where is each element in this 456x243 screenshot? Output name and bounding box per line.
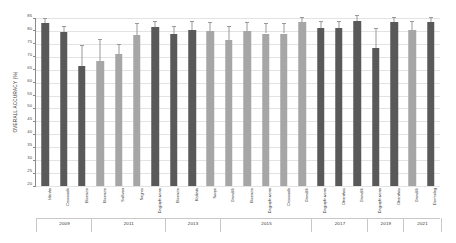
y-axis-tick-label: 20 bbox=[27, 182, 32, 186]
bar bbox=[152, 27, 160, 186]
y-axis-tick-label: 60 bbox=[27, 79, 32, 83]
bar bbox=[372, 48, 380, 186]
y-axis-tick-label: 50 bbox=[27, 104, 32, 108]
bar-group bbox=[165, 18, 183, 186]
bar-group bbox=[385, 18, 403, 186]
error-bar-cap bbox=[62, 26, 66, 27]
y-axis-tick-label: 30 bbox=[27, 156, 32, 160]
bar bbox=[78, 66, 86, 186]
x-axis-category-label-text: Grondilli bbox=[230, 188, 235, 202]
bar-group bbox=[183, 18, 201, 186]
bar-group bbox=[293, 18, 311, 186]
y-axis-tick-label: 85 bbox=[27, 14, 32, 18]
bar bbox=[225, 40, 233, 186]
y-axis-tick-label: 80 bbox=[27, 27, 32, 31]
bar-group bbox=[73, 18, 91, 186]
error-bar bbox=[192, 21, 193, 30]
error-bar bbox=[320, 21, 321, 29]
bar-series bbox=[36, 18, 440, 186]
bar bbox=[243, 31, 251, 186]
bar bbox=[335, 28, 343, 186]
bar-group bbox=[146, 18, 164, 186]
bar bbox=[317, 28, 325, 186]
x-axis-category-label-text: Otranthos bbox=[341, 188, 346, 205]
x-axis-category-labels: IdanhaCrosswalkBisenzioBisenzioSullivanS… bbox=[36, 188, 440, 222]
error-bar-cap bbox=[153, 21, 157, 22]
bar-group bbox=[238, 18, 256, 186]
y-axis-tick-label: 75 bbox=[27, 40, 32, 44]
bar bbox=[354, 21, 362, 186]
y-axis-tick-label: 70 bbox=[27, 53, 32, 57]
error-bar bbox=[173, 26, 174, 34]
x-axis-category-label-text: Bisenzio bbox=[249, 188, 254, 203]
error-bar-cap bbox=[208, 22, 212, 23]
y-axis-tick-label: 55 bbox=[27, 92, 32, 96]
bar bbox=[427, 22, 435, 186]
bar bbox=[207, 31, 215, 186]
error-bar-cap bbox=[98, 39, 102, 40]
bar-group bbox=[36, 18, 54, 186]
year-group: 2011 bbox=[91, 218, 165, 232]
bar bbox=[262, 34, 270, 186]
error-bar-cap bbox=[245, 22, 249, 23]
bar bbox=[299, 22, 307, 186]
x-axis-category-label-text: Crosswalk bbox=[65, 188, 70, 206]
error-bar bbox=[247, 22, 248, 31]
bar-group bbox=[422, 18, 440, 186]
error-bar-cap bbox=[227, 26, 231, 27]
year-group-label: 2017 bbox=[312, 221, 367, 226]
bar-group bbox=[311, 18, 329, 186]
error-bar-cap bbox=[374, 28, 378, 29]
error-bar bbox=[118, 44, 119, 54]
error-bar-cap bbox=[282, 23, 286, 24]
year-group-label: 2011 bbox=[92, 221, 165, 226]
bar-group bbox=[220, 18, 238, 186]
y-axis-ticks: 8580757065605550454035302520 bbox=[0, 18, 36, 187]
error-bar-cap bbox=[337, 21, 341, 22]
bar-chart-figure: 8580757065605550454035302520 OVERALL ACC… bbox=[0, 0, 456, 243]
bar-group bbox=[330, 18, 348, 186]
y-axis-title-text: OVERALL ACCURACY (%) bbox=[13, 52, 18, 152]
error-bar-cap bbox=[410, 21, 414, 22]
x-axis-category-label-text: Dagiupfruvona bbox=[267, 188, 272, 213]
bar bbox=[133, 35, 141, 186]
x-axis-category-label-text: Dermolog bbox=[432, 188, 437, 205]
y-axis-tick-label: 35 bbox=[27, 143, 32, 147]
gridline bbox=[36, 186, 440, 187]
x-axis-category-label-text: Crosswalk bbox=[286, 188, 291, 206]
year-group-axis: 2009201120132015201720192021 bbox=[36, 218, 440, 238]
year-group: 2013 bbox=[165, 218, 221, 232]
error-bar bbox=[412, 21, 413, 30]
x-axis-category-label-text: Bisenzio bbox=[175, 188, 180, 203]
bar-group bbox=[54, 18, 72, 186]
year-group: 2021 bbox=[403, 218, 442, 232]
bar-group bbox=[201, 18, 219, 186]
error-bar-cap bbox=[264, 23, 268, 24]
error-bar bbox=[338, 21, 339, 29]
y-axis-title: OVERALL ACCURACY (%) bbox=[0, 0, 4, 52]
year-group-label: 2019 bbox=[368, 221, 405, 226]
x-axis-category-label: Dermolog bbox=[432, 188, 456, 193]
x-axis-category-label-text: Sullivan bbox=[120, 188, 125, 202]
error-bar-cap bbox=[319, 21, 323, 22]
x-axis-category-label-text: Idanha bbox=[47, 188, 52, 200]
bar-group bbox=[367, 18, 385, 186]
y-axis-tick-label: 45 bbox=[27, 117, 32, 121]
x-axis-category-label-text: Grondilli bbox=[359, 188, 364, 202]
error-bar bbox=[136, 23, 137, 35]
error-bar-cap bbox=[355, 15, 359, 16]
bar-group bbox=[348, 18, 366, 186]
bar-group bbox=[275, 18, 293, 186]
x-axis-category-label-text: Bisenzio bbox=[102, 188, 107, 203]
x-axis-category-label-text: Kalkata bbox=[194, 188, 199, 201]
error-bar-cap bbox=[43, 18, 47, 19]
year-group-label: 2013 bbox=[166, 221, 221, 226]
year-group: 2015 bbox=[220, 218, 313, 232]
bar bbox=[41, 23, 49, 186]
y-axis-tick-label: 25 bbox=[27, 169, 32, 173]
year-group: 2017 bbox=[311, 218, 367, 232]
error-bar-cap bbox=[300, 17, 304, 18]
bar-group bbox=[109, 18, 127, 186]
x-axis-category-label-text: Dagiupfruvona bbox=[377, 188, 382, 213]
bar bbox=[170, 34, 178, 186]
